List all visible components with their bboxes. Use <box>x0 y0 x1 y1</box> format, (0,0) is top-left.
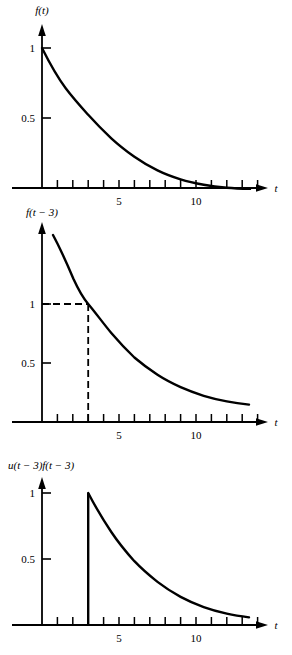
x-ticklabel-10: 10 <box>191 429 203 441</box>
y-axis-arrow <box>38 477 46 489</box>
x-ticklabel-5: 5 <box>116 632 122 644</box>
y-ticklabel-1: 1 <box>30 487 36 499</box>
y-ticklabel-half: 0.5 <box>21 553 35 565</box>
chart-svg-step: u(t − 3)f(t − 3) t 1 0.5 5 10 <box>0 455 292 655</box>
y-ticklabel-half: 0.5 <box>21 112 35 124</box>
data-curve-ft <box>42 48 250 189</box>
y-ticklabel-1: 1 <box>30 42 36 54</box>
chart-panel-step-ft-shifted: u(t − 3)f(t − 3) t 1 0.5 5 10 <box>0 455 292 655</box>
chart-panel-ft: f(t) t 1 0.5 5 10 <box>0 0 292 218</box>
chart-title-step: u(t − 3)f(t − 3) <box>8 459 75 472</box>
y-ticklabel-half: 0.5 <box>21 357 35 369</box>
chart-title-ft: f(t) <box>35 4 49 17</box>
chart-svg-ft-shifted: f(t − 3) t 1 0.5 5 10 <box>0 200 292 450</box>
chart-svg-ft: f(t) t 1 0.5 5 10 <box>0 0 292 218</box>
x-ticklabel-5: 5 <box>116 429 122 441</box>
chart-title-ft-shifted: f(t − 3) <box>26 206 58 219</box>
x-axis-label: t <box>274 182 278 194</box>
x-axis-label: t <box>274 416 278 428</box>
x-ticklabel-10: 10 <box>191 632 203 644</box>
data-curve-step <box>88 493 249 617</box>
data-curve-ft-shifted <box>53 235 249 405</box>
chart-panel-ft-shifted: f(t − 3) t 1 0.5 5 10 <box>0 200 292 450</box>
y-axis-arrow <box>38 222 46 234</box>
y-axis-arrow <box>38 24 46 36</box>
x-axis-label: t <box>274 619 278 631</box>
y-ticklabel-1: 1 <box>30 298 36 310</box>
